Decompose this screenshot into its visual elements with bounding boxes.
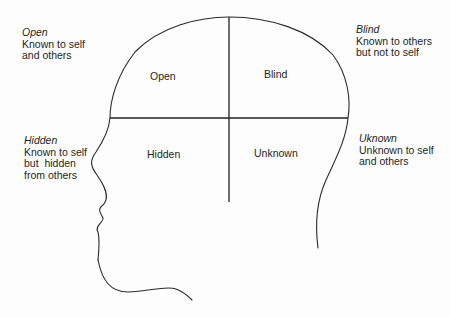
annotation-blind-title: Blind [356, 24, 432, 36]
quadrant-label-unknown: Unknown [254, 147, 298, 159]
annotation-open-line-2: and others [22, 50, 85, 62]
quadrant-label-hidden: Hidden [147, 148, 180, 160]
head-profile-line [92, 17, 349, 260]
quadrant-label-blind: Blind [264, 68, 287, 80]
annotation-unknown-title: Uknown [359, 133, 434, 145]
annotation-open-title: Open [22, 27, 85, 39]
chin-neck-line [98, 260, 192, 300]
annotation-hidden-line-2: but hidden [24, 158, 87, 170]
annotation-open: Open Known to self and others [22, 27, 85, 62]
annotation-blind-line-2: but not to self [356, 47, 432, 59]
annotation-unknown-line-2: and others [359, 156, 434, 168]
annotation-hidden-title: Hidden [24, 135, 87, 147]
quadrant-label-open: Open [150, 70, 176, 82]
annotation-blind: Blind Known to others but not to self [356, 24, 432, 59]
annotation-hidden-line-3: from others [24, 170, 87, 182]
annotation-hidden: Hidden Known to self but hidden from oth… [24, 135, 87, 181]
annotation-unknown: Uknown Unknown to self and others [359, 133, 434, 168]
